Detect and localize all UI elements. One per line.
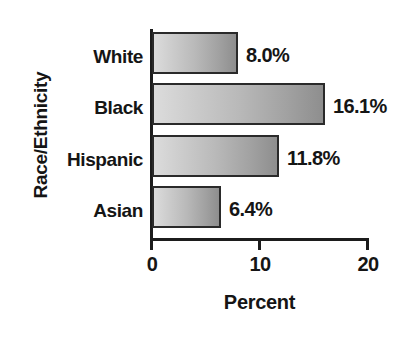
bar-white [152,32,238,74]
x-tick-mark-20 [366,241,369,250]
x-tick-mark-10 [258,241,261,250]
bar-value-white: 8.0% [246,45,289,65]
x-tick-label-10: 10 [240,253,280,276]
bar-value-asian: 6.4% [229,199,272,219]
bar-chart: Race/Ethnicity White Black Hispanic Asia… [0,0,406,341]
bar-value-black: 16.1% [333,96,387,116]
y-tick-label-black: Black [23,98,143,117]
y-tick-label-white: White [23,47,143,66]
x-axis-title: Percent [150,291,369,314]
x-tick-label-0: 0 [132,253,172,276]
bar-black [152,83,325,125]
bar-hispanic [152,135,279,177]
x-tick-label-20: 20 [348,253,388,276]
y-tick-label-asian: Asian [23,201,143,220]
x-tick-mark-0 [150,241,153,250]
bar-value-hispanic: 11.8% [287,148,340,168]
bar-asian [152,186,221,228]
y-tick-label-hispanic: Hispanic [23,150,143,169]
